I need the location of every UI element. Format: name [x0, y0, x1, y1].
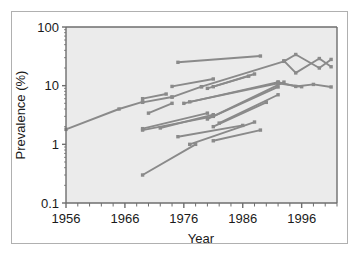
series-marker — [206, 87, 209, 90]
series-marker — [141, 101, 144, 104]
series-marker — [159, 126, 162, 129]
series-marker — [164, 92, 167, 95]
y-tick-label: 100 — [37, 20, 59, 35]
series-marker — [253, 120, 256, 123]
prevalence-vs-year-chart: 0.1110100 19561966197619861996 Year Prev… — [0, 0, 360, 257]
series-marker — [141, 128, 144, 131]
y-tick-label: 0.1 — [41, 196, 59, 211]
series-marker — [276, 82, 279, 85]
series-marker — [318, 57, 321, 60]
x-tick-label: 1996 — [287, 211, 316, 226]
series-marker — [188, 100, 191, 103]
x-axis-ticks — [66, 203, 337, 208]
series-marker — [206, 111, 209, 114]
series-marker — [176, 135, 179, 138]
series-marker — [329, 65, 332, 68]
series-marker — [212, 125, 215, 128]
series-marker — [200, 85, 203, 88]
series-marker — [176, 61, 179, 64]
series-marker — [188, 143, 191, 146]
series-marker — [259, 128, 262, 131]
x-axis-tick-labels: 19561966197619861996 — [52, 211, 317, 226]
series-marker — [212, 115, 215, 118]
x-tick-label: 1976 — [169, 211, 198, 226]
series-marker — [282, 59, 285, 62]
y-tick-label: 10 — [45, 78, 59, 93]
series-marker — [170, 95, 173, 98]
x-tick-label: 1966 — [110, 211, 139, 226]
series-marker — [300, 85, 303, 88]
x-tick-label: 1956 — [52, 211, 81, 226]
series-marker — [206, 117, 209, 120]
series-marker — [182, 102, 185, 105]
figure-root: 0.1110100 19561966197619861996 Year Prev… — [0, 0, 360, 257]
series-marker — [312, 83, 315, 86]
series-marker — [294, 71, 297, 74]
series-marker — [212, 85, 215, 88]
series-marker — [253, 72, 256, 75]
series-marker — [276, 85, 279, 88]
series-marker — [194, 143, 197, 146]
series-marker — [276, 93, 279, 96]
series-marker — [294, 53, 297, 56]
series-marker — [170, 102, 173, 105]
series-marker — [141, 173, 144, 176]
y-axis-title: Prevalence (%) — [13, 71, 28, 160]
series-marker — [147, 111, 150, 114]
series-marker — [265, 101, 268, 104]
series-marker — [170, 85, 173, 88]
series-marker — [212, 77, 215, 80]
series-marker — [329, 85, 332, 88]
y-tick-label: 1 — [52, 137, 59, 152]
series-marker — [117, 107, 120, 110]
x-axis-title: Year — [188, 231, 215, 246]
series-marker — [259, 54, 262, 57]
series-marker — [329, 58, 332, 61]
y-axis-tick-labels: 0.1110100 — [37, 20, 59, 211]
x-tick-label: 1986 — [228, 211, 257, 226]
series-marker — [212, 139, 215, 142]
series-marker — [141, 97, 144, 100]
series-marker — [318, 66, 321, 69]
